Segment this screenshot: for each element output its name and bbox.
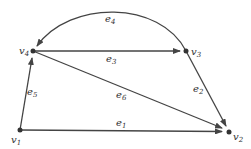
label-e6: e6	[116, 89, 127, 102]
label-e1: e1	[116, 117, 126, 130]
graph-diagram: v1 v2 v3 v4 e1 e2 e3 e4 e5 e6	[0, 0, 251, 149]
node-v3	[184, 49, 189, 54]
edge-e1	[20, 130, 222, 132]
label-v2: v2	[233, 131, 244, 144]
label-e3: e3	[106, 53, 117, 66]
node-v2	[227, 130, 232, 135]
label-v4: v4	[19, 45, 29, 58]
edge-e2	[186, 51, 226, 126]
label-v1: v1	[11, 134, 21, 147]
label-e4: e4	[105, 13, 115, 26]
node-v1	[18, 128, 23, 133]
label-e2: e2	[193, 83, 204, 96]
label-v3: v3	[191, 46, 202, 59]
label-e5: e5	[27, 86, 38, 99]
node-v4	[31, 49, 36, 54]
